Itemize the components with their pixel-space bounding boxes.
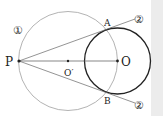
label-p: P [5,55,13,69]
label-b: B [104,96,111,106]
label-o-prime: O′ [64,68,73,78]
label-line-upper: ② [134,13,144,26]
point-p [17,59,20,62]
label-circle-1: ① [13,24,23,37]
point-o [116,60,119,63]
tangent-line-upper [19,19,135,61]
label-o: O [121,55,131,69]
geometry-diagram: P O O′ A B ① ② ② [0,0,163,116]
point-o-prime [67,60,69,62]
label-a: A [103,18,111,28]
label-line-lower: ② [134,99,144,112]
tangent-line-lower [19,61,135,103]
